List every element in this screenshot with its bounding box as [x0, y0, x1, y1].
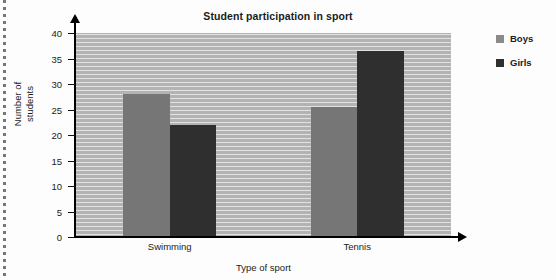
bar-swimming-girls	[170, 125, 216, 237]
y-tick-0	[68, 237, 75, 238]
legend-item-boys[interactable]: Boys	[496, 33, 554, 44]
x-category-label-swimming: Swimming	[148, 241, 192, 252]
y-tick-40	[68, 33, 75, 34]
y-tick-35	[68, 59, 75, 60]
bar-tennis-girls	[357, 51, 403, 237]
legend-swatch-boys-icon	[496, 35, 504, 43]
legend-item-girls[interactable]: Girls	[496, 57, 554, 68]
y-tick-30	[68, 84, 75, 85]
y-tick-label-10: 10	[16, 181, 62, 192]
y-tick-5	[68, 212, 75, 213]
chart-title: Student participation in sport	[0, 10, 556, 22]
x-axis-line	[74, 236, 459, 238]
legend-swatch-girls-icon	[496, 59, 504, 67]
y-tick-label-15: 15	[16, 155, 62, 166]
chart-screenshot: Student participation in sport 051015202…	[0, 0, 556, 280]
page-margin-dotted-rule	[3, 0, 6, 280]
y-tick-20	[68, 135, 75, 136]
y-tick-15	[68, 161, 75, 162]
plot-area	[76, 33, 451, 237]
x-axis-arrow-icon	[458, 232, 467, 242]
bar-tennis-boys	[311, 107, 357, 237]
legend-label-boys: Boys	[510, 33, 533, 44]
legend: Boys Girls	[496, 33, 554, 81]
y-axis-title-line-1: Number of	[12, 61, 24, 147]
bar-swimming-boys	[123, 94, 169, 237]
y-axis-line	[74, 22, 76, 238]
x-category-label-tennis: Tennis	[344, 241, 371, 252]
y-axis-title: Number of students	[12, 61, 36, 147]
legend-label-girls: Girls	[510, 57, 532, 68]
y-tick-10	[68, 186, 75, 187]
y-tick-label-0: 0	[16, 232, 62, 243]
y-tick-label-5: 5	[16, 206, 62, 217]
y-tick-25	[68, 110, 75, 111]
y-tick-label-40: 40	[16, 28, 62, 39]
y-axis-title-line-2: students	[24, 61, 36, 147]
y-axis-arrow-icon	[70, 14, 80, 23]
x-axis-title: Type of sport	[76, 262, 451, 273]
